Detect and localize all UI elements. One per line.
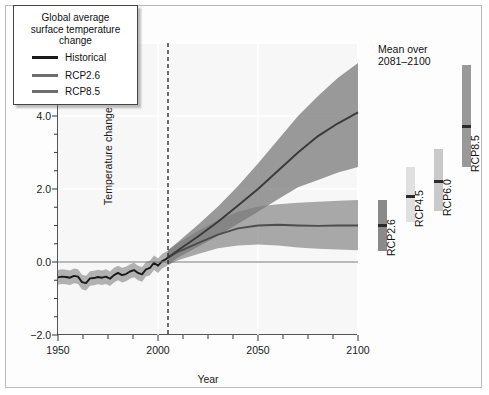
legend-box: Global averagesurface temperaturechange … <box>13 5 138 105</box>
legend-title-line: change <box>18 35 133 47</box>
legend-item-label: RCP8.5 <box>65 86 100 97</box>
legend-item-label: Historical <box>65 52 106 63</box>
range-bar-label: RCP2.6 <box>385 219 397 256</box>
ytick-label: −2.0 <box>0 329 51 341</box>
legend-item-historical[interactable]: Historical <box>18 52 133 63</box>
legend-swatch-icon <box>32 74 58 77</box>
range-bar-label: RCP4.5 <box>413 190 425 227</box>
xtick-label: 2050 <box>228 344 288 356</box>
legend-item-rcp8-5[interactable]: RCP8.5 <box>18 86 133 97</box>
legend-title-line: Global average <box>18 12 133 24</box>
xtick-label: 2000 <box>128 344 188 356</box>
ytick-label: 4.0 <box>0 110 51 122</box>
x-axis-label: Year <box>58 373 358 385</box>
side-panel-title-line: Mean over <box>378 43 431 55</box>
ytick-label: 2.0 <box>0 183 51 195</box>
legend-title: Global averagesurface temperaturechange <box>18 12 133 47</box>
legend-entries: HistoricalRCP2.6RCP8.5 <box>18 52 133 97</box>
side-panel-title: Mean over2081–2100 <box>378 43 431 67</box>
side-panel-title-line: 2081–2100 <box>378 55 431 67</box>
uncertainty-band-Historical <box>58 250 168 290</box>
legend-item-label: RCP2.6 <box>65 70 100 81</box>
ytick-label: 0.0 <box>0 256 51 268</box>
side-panel: Mean over2081–2100 RCP2.6RCP4.5RCP6.0RCP… <box>372 43 484 343</box>
range-bar-label: RCP8.5 <box>469 135 481 172</box>
legend-title-line: surface temperature <box>18 24 133 36</box>
legend-swatch-icon <box>32 90 58 93</box>
range-bar-mean-marker <box>462 125 471 128</box>
figure-root: −2.00.02.04.06.01950200020502100Temperat… <box>0 0 489 395</box>
xtick-label: 2100 <box>328 344 388 356</box>
xtick-label: 1950 <box>28 344 88 356</box>
legend-swatch-icon <box>32 56 58 59</box>
range-bar-label: RCP6.0 <box>441 179 453 216</box>
legend-item-rcp2-6[interactable]: RCP2.6 <box>18 70 133 81</box>
